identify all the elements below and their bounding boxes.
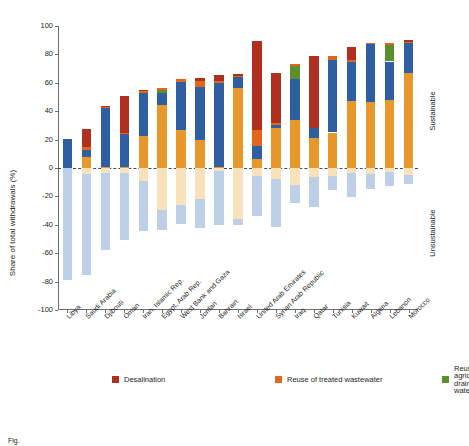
legend-item[interactable]: Reuse of treated wastewater: [275, 376, 442, 384]
bar-stack[interactable]: [290, 26, 300, 310]
bar-segment: [176, 205, 186, 224]
bar-segment: [82, 129, 92, 147]
bar-stack[interactable]: [404, 26, 414, 310]
y-tick-mark: [55, 282, 58, 283]
bar-segment: [139, 93, 149, 136]
bar-segment: [271, 73, 281, 123]
bar-segment: [176, 79, 186, 82]
figure-caption: Fig.: [8, 437, 20, 444]
bar-segment: [101, 106, 111, 107]
bar-stack[interactable]: [214, 26, 224, 310]
bar-segment: [82, 147, 92, 149]
bar-segment: [139, 136, 149, 168]
bar-segment: [252, 168, 262, 176]
plot-area: 100806040200-20-40-60-80-100 LibyaSaudi …: [58, 26, 418, 310]
bar-segment: [233, 77, 243, 88]
legend-item[interactable]: Desalination: [112, 376, 275, 384]
bar-segment: [157, 105, 167, 168]
chart-legend: DesalinationReuse of treated wastewaterR…: [112, 373, 442, 387]
bar-segment: [309, 177, 319, 208]
bar-segment: [233, 76, 243, 77]
legend-swatch: [275, 376, 282, 383]
bar-segment: [328, 133, 338, 169]
bar-segment: [347, 47, 357, 60]
bar-segment: [309, 168, 319, 177]
bar-stack[interactable]: [366, 26, 376, 310]
bar-segment: [290, 120, 300, 168]
bar-segment: [157, 93, 167, 105]
bar-segment: [214, 83, 224, 167]
y-tick-mark: [55, 83, 58, 84]
bar-stack[interactable]: [120, 26, 130, 310]
bar-stack[interactable]: [233, 26, 243, 310]
bar-segment: [195, 199, 205, 228]
y-tick-mark: [55, 140, 58, 141]
bar-segment: [139, 91, 149, 92]
bar-segment: [271, 125, 281, 128]
bar-segment: [347, 62, 357, 100]
figure-container: Share of total withdrawals (%) 100806040…: [0, 0, 469, 446]
bar-segment: [290, 64, 300, 66]
bar-segment: [404, 73, 414, 168]
bar-segment: [309, 56, 319, 128]
bar-segment: [195, 81, 205, 87]
bar-segment: [271, 179, 281, 227]
bar-stack[interactable]: [252, 26, 262, 310]
bar-segment: [63, 168, 73, 280]
bar-stack[interactable]: [176, 26, 186, 310]
bar-segment: [120, 96, 130, 133]
bar-segment: [252, 159, 262, 168]
y-tick-mark: [55, 225, 58, 226]
bar-segment: [252, 41, 262, 130]
bar-segment: [157, 90, 167, 93]
bar-segment: [271, 128, 281, 168]
bar-segment: [157, 88, 167, 90]
bar-stack[interactable]: [385, 26, 395, 310]
bar-segment: [233, 168, 243, 219]
bar-segment: [120, 133, 130, 134]
bar-segment: [404, 175, 414, 184]
bar-stack[interactable]: [139, 26, 149, 310]
bar-segment: [290, 168, 300, 185]
y-tick-mark: [55, 310, 58, 311]
bar-segment: [233, 74, 243, 75]
bar-stack[interactable]: [309, 26, 319, 310]
bar-stack[interactable]: [347, 26, 357, 310]
bar-segment: [328, 56, 338, 60]
bar-segment: [82, 157, 92, 168]
bar-segment: [252, 130, 262, 146]
bar-segment: [176, 130, 186, 168]
bar-segment: [404, 40, 414, 41]
bar-stack[interactable]: [101, 26, 111, 310]
bar-segment: [195, 140, 205, 168]
bar-segment: [214, 75, 224, 81]
bar-segment: [120, 134, 130, 167]
bar-segment: [290, 79, 300, 120]
legend-item[interactable]: Reuse of agricultural drainage water: [442, 365, 469, 395]
bar-segment: [101, 108, 111, 166]
bar-segment: [309, 138, 319, 168]
bar-stack[interactable]: [82, 26, 92, 310]
y-tick-mark: [55, 253, 58, 254]
bar-segment: [233, 219, 243, 225]
bar-segment: [214, 81, 224, 83]
bar-stack[interactable]: [328, 26, 338, 310]
legend-label: Desalination: [124, 376, 165, 384]
bar-segment: [139, 90, 149, 91]
y-axis-title: Share of total withdrawals (%): [8, 170, 17, 276]
bar-segment: [82, 150, 92, 158]
bar-segment: [195, 168, 205, 199]
bar-stack[interactable]: [195, 26, 205, 310]
bar-segment: [328, 176, 338, 190]
bar-stack[interactable]: [63, 26, 73, 310]
bar-segment: [347, 101, 357, 168]
bar-segment: [385, 172, 395, 186]
bar-segment: [271, 123, 281, 126]
bar-segment: [404, 42, 414, 43]
bar-segment: [195, 78, 205, 82]
bar-segment: [385, 100, 395, 168]
bar-stack[interactable]: [157, 26, 167, 310]
bar-stack[interactable]: [271, 26, 281, 310]
bar-segment: [404, 168, 414, 175]
bar-segment: [176, 82, 186, 130]
